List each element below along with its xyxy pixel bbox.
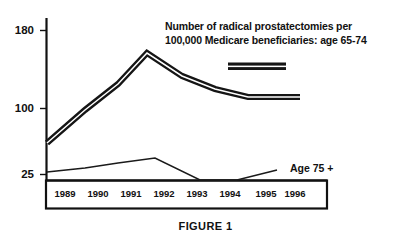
y-tick-label-25: 25	[4, 168, 34, 181]
y-tick-label-180: 180	[4, 24, 34, 37]
x-tick-label-1992: 1992	[149, 189, 179, 200]
series-line-age-75-plus	[47, 158, 277, 180]
x-tick-label-1989: 1989	[50, 189, 80, 200]
x-tick-label-1991: 1991	[116, 189, 146, 200]
figure-caption: FIGURE 1	[0, 220, 411, 232]
figure-container: 180 100 25 1989 1990 1991 1992 1993 1994…	[0, 0, 411, 240]
series-label-age-75-plus: Age 75 +	[290, 163, 333, 175]
x-tick-label-1995: 1995	[251, 189, 281, 200]
chart-title-line-1: Number of radical prostatectomies per	[165, 21, 352, 33]
legend-swatch-highlight	[228, 66, 286, 68]
age-65-74-line-swatch	[228, 63, 286, 71]
x-tick-label-1990: 1990	[83, 189, 113, 200]
chart-title-line-2: 100,000 Medicare beneficiaries: age 65-7…	[165, 35, 367, 47]
x-tick-label-1996: 1996	[280, 189, 310, 200]
x-tick-label-1994: 1994	[215, 189, 245, 200]
y-tick-label-100: 100	[4, 102, 34, 115]
x-tick-label-1993: 1993	[182, 189, 212, 200]
